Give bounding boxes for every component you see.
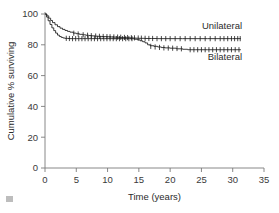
y-tick-label: 80 [27, 39, 38, 50]
y-axis-ticks: 020406080100 [22, 8, 45, 173]
censor-marks-group [66, 31, 240, 53]
x-tick-label: 0 [42, 174, 47, 185]
x-tick-label: 20 [165, 174, 176, 185]
x-tick-label: 35 [259, 174, 270, 185]
series-label-bilateral: Bilateral [208, 51, 242, 62]
x-tick-label: 10 [102, 174, 113, 185]
x-tick-label: 25 [196, 174, 207, 185]
page-corner-mark [6, 196, 13, 202]
x-axis-title: Time (years) [128, 191, 181, 202]
series-annotations: UnilateralBilateral [202, 20, 242, 63]
x-tick-label: 5 [74, 174, 79, 185]
survival-curve-figure: 05101520253035 020406080100 UnilateralBi… [0, 0, 279, 213]
y-tick-label: 20 [27, 132, 38, 143]
y-tick-label: 40 [27, 101, 38, 112]
y-tick-label: 100 [22, 8, 38, 19]
y-tick-label: 60 [27, 70, 38, 81]
x-tick-label: 15 [134, 174, 145, 185]
x-tick-label: 30 [227, 174, 238, 185]
y-axis-title: Cumulative % surviving [5, 42, 16, 141]
series-label-unilateral: Unilateral [202, 20, 242, 31]
y-tick-label: 0 [33, 162, 38, 173]
x-axis-ticks: 05101520253035 [42, 168, 269, 185]
kaplan-meier-plot: 05101520253035 020406080100 UnilateralBi… [0, 0, 279, 213]
